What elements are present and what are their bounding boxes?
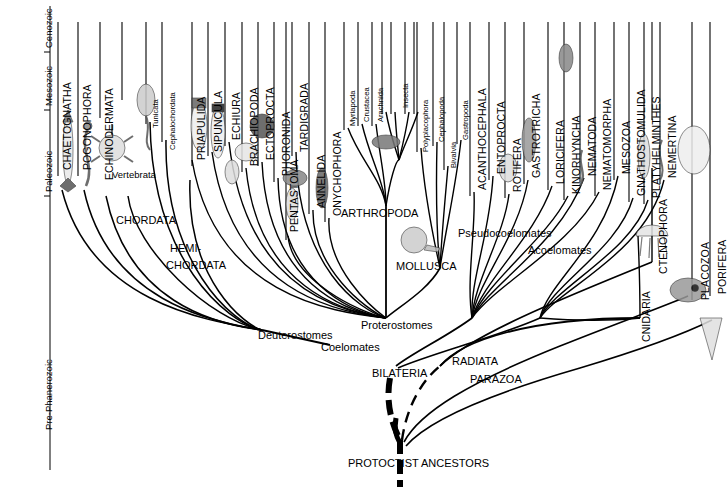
phylum-label-nematomorpha: NEMATOMORPHA bbox=[602, 99, 613, 190]
phylum-label-acanthocephala: ACANTHOCEPHALA bbox=[477, 88, 488, 190]
phylum-label-platyhelminthes: PLATYHELMINTHES bbox=[651, 96, 662, 198]
phylum-label-rotifera: ROTIFERA bbox=[512, 138, 523, 192]
clade-label-chordata: CHORDATA bbox=[116, 215, 176, 226]
organism-insecta bbox=[372, 135, 400, 149]
phylum-label-gastropoda: Gastropoda bbox=[462, 100, 470, 140]
era-label-mesozoic: Mesozoic bbox=[44, 66, 54, 106]
clade-label-acoelomates: Acoelomates bbox=[528, 245, 592, 256]
clade-label-bilateria: BILATERIA bbox=[372, 368, 427, 379]
clade-label-hemichordata-line2: CHORDATA bbox=[166, 260, 226, 271]
phylum-label-tardigrada: TARDIGRADA bbox=[299, 83, 310, 152]
clade-label-radiata: RADIATA bbox=[452, 356, 498, 367]
phylum-label-cephalopoda: Cephalopoda bbox=[438, 97, 446, 142]
phylum-label-porifera: PORIFERA bbox=[717, 240, 728, 294]
phylum-label-insecta: Insecta bbox=[402, 84, 410, 108]
phylum-label-myriapoda: Myriapoda bbox=[349, 91, 357, 126]
phylum-label-bivalvia: Bivalvia bbox=[450, 142, 458, 168]
bilateria-lower-solid bbox=[395, 418, 400, 443]
clade-label-coelomates: Coelomates bbox=[321, 342, 380, 353]
organism-echiura bbox=[225, 160, 239, 184]
phylum-label-polyplacophora: Polyplacophora bbox=[422, 100, 430, 152]
tree-drawing bbox=[0, 0, 728, 503]
clade-label-protoctist-ancestors: PROTOCTIST ANCESTORS bbox=[348, 458, 489, 469]
clade-label-hemichordata-line1: HEMI- bbox=[170, 243, 201, 254]
phylum-label-vertebrata: Vertebrata bbox=[112, 170, 156, 180]
phylum-label-gastrotricha: GASTROTRICHA bbox=[531, 93, 542, 178]
clade-label-proterostomes: Proterostomes bbox=[361, 320, 433, 331]
clade-label-deuterostomes: Deuterostomes bbox=[258, 330, 333, 341]
clade-label-arthropoda: ARTHROPODA bbox=[341, 208, 418, 219]
clade-label-pseudocoelomates: Pseudocoelomates bbox=[458, 228, 552, 239]
phylum-label-chaetognatha: CHAETOGNATHA bbox=[62, 82, 73, 170]
phylum-label-nematoda: NEMATODA bbox=[587, 117, 598, 176]
phylum-label-priapulida: PRIAPULIDA bbox=[196, 97, 207, 160]
phylum-label-gnathostomulida: GNATHOSTOMULIDA bbox=[636, 89, 647, 196]
organism-porifera bbox=[700, 318, 722, 360]
phylum-label-echiura: ECHIURA bbox=[231, 92, 242, 140]
phylum-label-cnidaria: CNIDARIA bbox=[641, 291, 652, 342]
clade-label-parazoa: PARAZOA bbox=[470, 374, 522, 385]
organism-kinorhyncha bbox=[559, 44, 573, 72]
phylum-label-brachiopoda: BRACHIOPODA bbox=[249, 87, 260, 166]
phylum-label-echinodermata: ECHINODERMATA bbox=[104, 88, 115, 180]
clade-label-mollusca: MOLLUSCA bbox=[396, 261, 457, 272]
organism-ctenophora bbox=[678, 126, 710, 174]
phylum-label-arachnida: Arachnida bbox=[377, 88, 385, 122]
phylum-label-nemertina: NEMERTINA bbox=[667, 115, 678, 178]
phylum-label-cephalochordata: Cephalochordata bbox=[169, 92, 177, 150]
phylum-label-pogonophora: POGONOPHORA bbox=[82, 84, 93, 170]
phylum-label-ctenophora: CTENOPHORA bbox=[658, 199, 669, 274]
phylum-label-mesozoa: MESOZOA bbox=[621, 121, 632, 174]
era-label-cenozoic: Cenozoic bbox=[44, 8, 54, 48]
phylum-label-sipuncula: SIPUNCULA bbox=[213, 91, 224, 152]
phylum-label-pentastoma: PENTASTOMA bbox=[289, 160, 300, 232]
phylogenetic-tree-figure: Cenozoic Mesozoic Paleozoic Pre-Phaneroz… bbox=[0, 0, 728, 503]
phylum-label-onychophora: ONYCHOPHORA bbox=[332, 131, 343, 216]
phylum-label-ectoprocta: ECTOPROCTA bbox=[265, 87, 276, 160]
phylum-label-placozoa: PLACOZOA bbox=[700, 242, 711, 300]
phylum-label-annelida: ANNELIDA bbox=[316, 155, 327, 208]
phylum-label-tunicata: Tunicata bbox=[152, 99, 160, 128]
phylum-label-entoprocta: ENTOPROCTA bbox=[496, 101, 507, 174]
phylum-label-loricifera: LORICIFERA bbox=[555, 120, 566, 184]
era-label-pre-phanerozoic: Pre-Phanerozoic bbox=[44, 359, 54, 430]
phylum-label-kinorhyncha: KINORHYNCHA bbox=[571, 115, 582, 194]
phylum-label-crustacea: Crustacea bbox=[363, 87, 371, 122]
era-label-paleozoic: Paleozoic bbox=[44, 151, 54, 192]
